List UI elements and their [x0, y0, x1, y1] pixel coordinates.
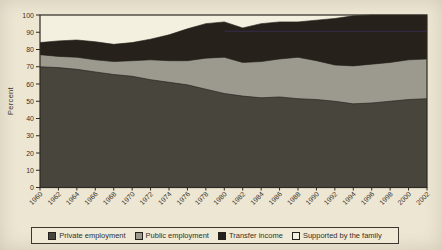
- y-tick-label: 100: [22, 12, 34, 19]
- y-tick-label: 70: [26, 63, 34, 70]
- x-tick-label: 1960: [28, 190, 44, 206]
- x-tick-label: 1976: [175, 190, 191, 206]
- legend-swatch-private-employment: [48, 232, 56, 240]
- x-tick-label: 1998: [378, 190, 394, 206]
- legend-swatch-public-employment: [135, 232, 143, 240]
- x-tick-label: 1982: [230, 190, 246, 206]
- x-tick-label: 1988: [286, 190, 302, 206]
- legend-item-transfer-income: Transfer income: [218, 231, 283, 240]
- y-tick-label: 90: [26, 29, 34, 36]
- legend-item-public-employment: Public employment: [135, 231, 209, 240]
- x-tick-label: 1968: [101, 190, 117, 206]
- y-axis-title: Percent: [6, 87, 15, 115]
- x-tick-label: 1984: [249, 190, 265, 206]
- plot-area: 0102030405060708090100196019621964196619…: [0, 0, 442, 224]
- x-tick-label: 1996: [359, 190, 375, 206]
- y-tick-label: 50: [26, 98, 34, 105]
- x-tick-label: 1986: [267, 190, 283, 206]
- x-tick-label: 1980: [212, 190, 228, 206]
- x-tick-label: 1964: [65, 190, 81, 206]
- y-tick-label: 80: [26, 46, 34, 53]
- chart-legend: Private employmentPublic employmentTrans…: [31, 227, 399, 244]
- stacked-area-chart: 0102030405060708090100196019621964196619…: [0, 0, 442, 250]
- x-tick-label: 1978: [194, 190, 210, 206]
- legend-swatch-transfer-income: [218, 232, 226, 240]
- x-tick-label: 1972: [138, 190, 154, 206]
- legend-label: Supported by the family: [303, 231, 382, 240]
- y-tick-label: 20: [26, 150, 34, 157]
- x-tick-label: 1990: [304, 190, 320, 206]
- legend-label: Private employment: [59, 231, 125, 240]
- x-tick-label: 1974: [157, 190, 173, 206]
- x-tick-label: 1966: [83, 190, 99, 206]
- x-tick-label: 1962: [46, 190, 62, 206]
- legend-swatch-supported-by-the-family: [292, 232, 300, 240]
- y-tick-label: 30: [26, 132, 34, 139]
- x-tick-label: 2002: [415, 190, 431, 206]
- x-tick-label: 1994: [341, 190, 357, 206]
- y-tick-label: 40: [26, 115, 34, 122]
- y-tick-label: 10: [26, 167, 34, 174]
- legend-label: Transfer income: [229, 231, 283, 240]
- legend-item-private-employment: Private employment: [48, 231, 125, 240]
- legend-item-supported-by-the-family: Supported by the family: [292, 231, 382, 240]
- y-tick-label: 60: [26, 81, 34, 88]
- x-tick-label: 1992: [323, 190, 339, 206]
- x-tick-label: 2000: [396, 190, 412, 206]
- y-tick-label: 0: [30, 184, 34, 191]
- scanned-figure: 0102030405060708090100196019621964196619…: [0, 0, 442, 250]
- x-tick-label: 1970: [120, 190, 136, 206]
- legend-label: Public employment: [146, 231, 209, 240]
